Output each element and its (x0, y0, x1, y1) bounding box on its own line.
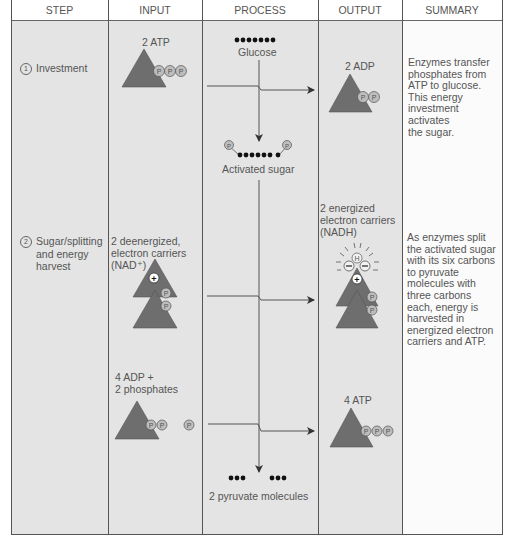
svg-text:+: + (151, 274, 156, 284)
svg-text:P: P (160, 422, 165, 429)
svg-text:P: P (386, 428, 391, 435)
svg-text:P: P (164, 303, 169, 310)
svg-text:+: + (354, 275, 359, 285)
svg-text:P: P (149, 422, 154, 429)
svg-text:P: P (157, 68, 162, 75)
svg-text:P: P (164, 290, 169, 297)
adp-phosphates-icon: P P P (115, 401, 194, 439)
nadh-icon: H + P P (336, 243, 379, 328)
svg-text:P: P (168, 68, 173, 75)
svg-text:P: P (375, 428, 380, 435)
svg-text:P: P (370, 294, 375, 301)
atp-molecule-icon: P P P (122, 49, 187, 87)
svg-text:H: H (354, 255, 359, 262)
pyruvate-molecules-icon (229, 476, 287, 481)
activated-sugar-icon: P P (225, 141, 292, 158)
svg-text:P: P (372, 94, 377, 101)
nad-plus-icon: + P P (133, 259, 177, 328)
process-arrows-row1 (207, 60, 314, 141)
atp-output-icon: P P P (330, 408, 393, 447)
svg-text:P: P (361, 94, 366, 101)
process-arrow-adp (208, 424, 314, 431)
svg-text:P: P (370, 307, 375, 314)
process-arrow-nad (207, 296, 314, 300)
svg-text:P: P (187, 422, 192, 429)
svg-text:P: P (364, 428, 369, 435)
diagram-graphics: P P P P P P P (0, 0, 505, 544)
svg-text:P: P (285, 143, 289, 149)
svg-text:P: P (179, 68, 184, 75)
svg-text:P: P (227, 143, 231, 149)
adp-molecule-icon: P P (329, 74, 380, 112)
glucose-carbon-chain-icon (235, 38, 276, 43)
